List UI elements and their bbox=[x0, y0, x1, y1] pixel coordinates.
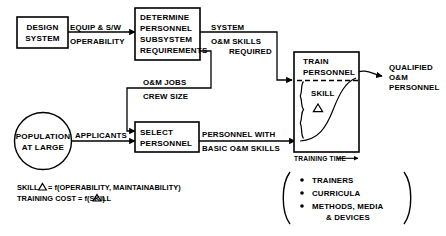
formula-delta-triangle-1 bbox=[39, 184, 47, 191]
train-personnel-line2: PERSONNEL bbox=[303, 68, 355, 77]
label-om-skills: O&M SKILLS bbox=[211, 37, 261, 46]
population-line1: POPULATION bbox=[16, 132, 70, 141]
resources-group: TRAINERS CURRICULA METHODS, MEDIA & DEVI… bbox=[283, 172, 411, 224]
determine-line3: SUBSYSTEM bbox=[140, 35, 192, 44]
edge-determine-to-select bbox=[127, 51, 211, 131]
design-system-line1: DESIGN bbox=[26, 23, 58, 32]
label-operability: OPERABILITY bbox=[70, 37, 125, 46]
formula-line1-suffix: = f(OPERABILITY, MAINTAINABILITY) bbox=[48, 183, 181, 192]
bullet-icon bbox=[300, 204, 304, 208]
formula-line1-prefix: SKILL bbox=[17, 183, 39, 192]
flow-diagram: DESIGN SYSTEM DETERMINE PERSONNEL SUBSYS… bbox=[0, 0, 446, 236]
skill-label: SKILL bbox=[311, 89, 335, 98]
label-qualified-om: O&M bbox=[389, 73, 408, 82]
resource-item-1: CURRICULA bbox=[312, 189, 360, 198]
label-basic-om-skills: BASIC O&M SKILLS bbox=[202, 144, 280, 153]
determine-line1: DETERMINE bbox=[140, 13, 190, 22]
resource-item-3: & DEVICES bbox=[326, 213, 370, 222]
bullet-icon bbox=[300, 178, 304, 182]
determine-line4: REQUIREMENTS bbox=[140, 46, 208, 55]
label-crew-size: CREW SIZE bbox=[143, 92, 188, 101]
node-population-at-large: POPULATION AT LARGE bbox=[15, 113, 72, 170]
train-personnel-line1: TRAIN bbox=[303, 57, 329, 66]
node-select-personnel: SELECT PERSONNEL bbox=[135, 122, 199, 152]
select-personnel-line2: PERSONNEL bbox=[140, 139, 192, 148]
node-train-personnel: TRAIN PERSONNEL SKILL bbox=[294, 52, 359, 152]
label-om-jobs: O&M JOBS bbox=[143, 78, 186, 87]
label-applicants: APPLICANTS bbox=[75, 131, 127, 140]
label-qualified-personnel: PERSONNEL bbox=[389, 83, 439, 92]
bullet-icon bbox=[300, 191, 304, 195]
resource-item-2: METHODS, MEDIA bbox=[312, 202, 384, 211]
label-equip-sw: EQUIP & S/W bbox=[70, 23, 121, 32]
resource-item-0: TRAINERS bbox=[312, 176, 354, 185]
determine-line2: PERSONNEL bbox=[140, 24, 192, 33]
left-paren-icon bbox=[283, 172, 290, 224]
formulas-group: SKILL = f(OPERABILITY, MAINTAINABILITY) … bbox=[17, 183, 181, 203]
label-system: SYSTEM bbox=[211, 23, 245, 32]
select-personnel-line1: SELECT bbox=[140, 128, 173, 137]
training-time-axis: TRAINING TIME bbox=[294, 155, 358, 162]
node-determine-requirements: DETERMINE PERSONNEL SUBSYSTEM REQUIREMEN… bbox=[135, 8, 208, 60]
population-line2: AT LARGE bbox=[22, 143, 65, 152]
node-design-system: DESIGN SYSTEM bbox=[17, 17, 68, 48]
label-personnel-with: PERSONNEL WITH bbox=[202, 130, 276, 139]
design-system-line2: SYSTEM bbox=[25, 34, 60, 43]
label-required: REQUIRED bbox=[229, 47, 272, 56]
right-paren-icon bbox=[404, 172, 411, 224]
diagram-canvas: DESIGN SYSTEM DETERMINE PERSONNEL SUBSYS… bbox=[0, 0, 446, 236]
label-qualified: QUALIFIED bbox=[389, 63, 433, 72]
